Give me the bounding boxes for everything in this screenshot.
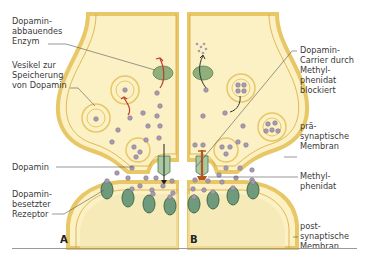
bottom-divider	[12, 248, 357, 249]
panel-label-a: A	[60, 234, 68, 245]
label-vesicle: Vesikel zur Speicherung von Dopamin	[12, 60, 67, 90]
enzyme-b	[193, 66, 213, 80]
label-presynaptic-membrane: prä- synaptische Membran	[300, 121, 349, 151]
label-methylphenidate: Methyl- phenidat	[300, 171, 336, 191]
label-receptor: Dopamin- besetzter Rezeptor	[12, 189, 52, 219]
label-dopamine: Dopamin	[12, 162, 49, 172]
panel-a-postsynaptic	[68, 182, 178, 248]
panel-label-b: B	[190, 234, 198, 245]
label-postsynaptic-membrane: post- synaptische Membran	[300, 221, 349, 251]
dopamine-synapse-diagram: Dopamin- abbauendes Enzym Vesikel zur Sp…	[0, 0, 367, 266]
label-carrier-blocked: Dopamin- Carrier durch Methyl- phenidat …	[300, 45, 354, 95]
label-enzyme: Dopamin- abbauendes Enzym	[12, 16, 62, 46]
